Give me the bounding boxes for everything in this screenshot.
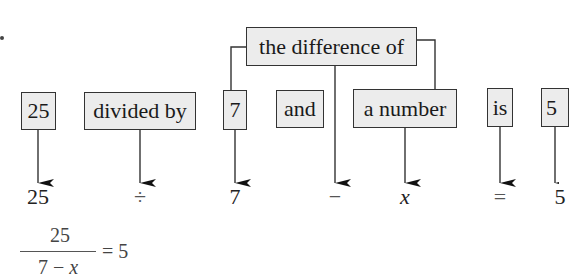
symbol-5: 5 <box>540 186 573 208</box>
symbol-x: x <box>385 186 425 208</box>
phrase-box-is: is <box>487 88 513 127</box>
phrase-box-25: 25 <box>21 92 56 130</box>
symbol-7: 7 <box>215 186 255 208</box>
equation: 25 7 − x = 5 <box>18 222 168 278</box>
symbol-minus: − <box>315 186 355 208</box>
equation-rhs: = 5 <box>102 240 128 263</box>
symbol-divide: ÷ <box>120 186 160 208</box>
phrase-box-and: and <box>276 90 324 128</box>
symbol-25: 25 <box>18 186 58 208</box>
equation-numerator: 25 <box>40 224 80 247</box>
equation-denominator: 7 − x <box>18 256 98 278</box>
phrase-box-5: 5 <box>541 88 569 127</box>
symbol-equals: = <box>480 186 520 208</box>
denominator-variable: x <box>69 256 78 278</box>
phrase-box-divided-by: divided by <box>84 92 196 130</box>
denominator-constant: 7 − <box>38 256 69 278</box>
fraction-bar <box>20 251 96 252</box>
phrase-box-a-number: a number <box>353 89 457 128</box>
phrase-box-7: 7 <box>223 90 247 130</box>
phrase-box-the-difference-of: the difference of <box>246 27 417 66</box>
